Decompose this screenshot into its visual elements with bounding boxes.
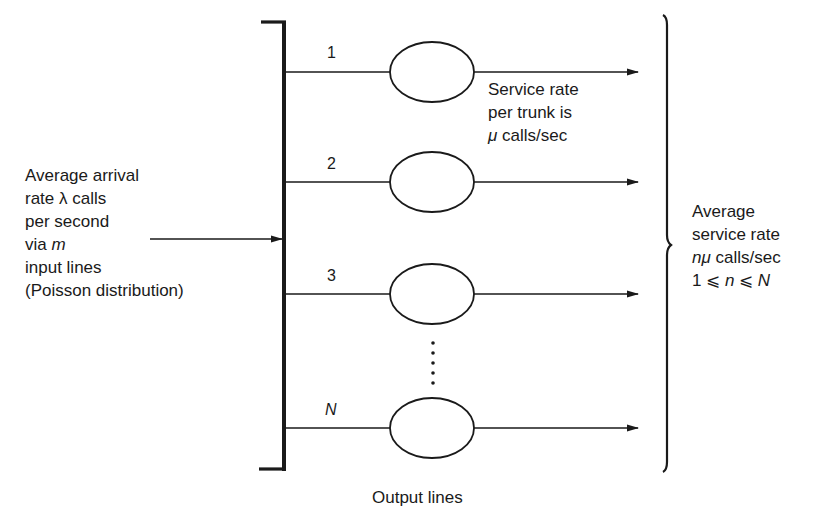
var-m: m: [51, 235, 65, 254]
server-ellipse: [390, 264, 474, 324]
server-ellipse: [390, 152, 474, 212]
per-trunk-service-note: Service rate per trunk is μ calls/sec: [488, 78, 579, 147]
trunk-label-1: 1: [327, 44, 336, 62]
ellipsis-dots: [431, 341, 435, 385]
trunk-3: [286, 264, 638, 324]
var-n-mu: nμ: [692, 248, 711, 267]
var-mu: μ: [488, 126, 497, 145]
right-brace: [663, 15, 671, 472]
input-line-4: via m: [25, 233, 184, 256]
server-ellipse: [390, 42, 474, 102]
trunk-label-3: 3: [327, 267, 336, 285]
input-line-2: rate λ calls: [25, 187, 184, 210]
trunk-2: [286, 152, 638, 212]
output-lines-label: Output lines: [372, 486, 463, 509]
output-description: Average service rate nμ calls/sec 1 ⩽ n …: [692, 200, 781, 292]
input-line-3: per second: [25, 210, 184, 233]
input-description: Average arrival rate λ calls per second …: [25, 164, 184, 302]
trunk-label-2: 2: [327, 155, 336, 173]
input-line-1: Average arrival: [25, 164, 184, 187]
trunk-n: [286, 398, 638, 458]
server-ellipse: [390, 398, 474, 458]
trunk-1: [286, 42, 638, 102]
switch-bracket: [259, 21, 286, 471]
input-line-5: input lines: [25, 256, 184, 279]
trunk-label-n: N: [325, 401, 337, 419]
input-line-6: (Poisson distribution): [25, 279, 184, 302]
